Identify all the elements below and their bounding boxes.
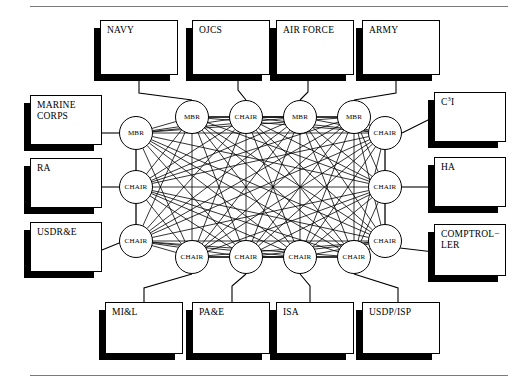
mesh-edge	[151, 141, 339, 248]
box-shadow-bottom	[24, 271, 94, 278]
committee-node-label: CHAIR	[374, 129, 397, 137]
mesh-edge	[152, 122, 175, 129]
org-box-label: ARMY	[369, 25, 439, 36]
org-box-label: OJCS	[199, 25, 269, 36]
committee-node-label: MBR	[128, 129, 144, 137]
committee-node-label: CHAIR	[235, 113, 258, 121]
org-box-label: PA&E	[199, 307, 269, 318]
committee-node-label: MBR	[346, 113, 362, 121]
org-box-airforce[interactable]: AIR FORCE	[276, 20, 354, 75]
connector-k-isa	[300, 274, 310, 302]
box-shadow-bottom	[24, 144, 94, 151]
org-box-army[interactable]: ARMY	[362, 20, 440, 75]
org-box-usdpisp[interactable]: USDP/ISP	[362, 302, 440, 354]
box-shadow-bottom	[24, 207, 94, 214]
org-box-c3i[interactable]: C3I	[434, 92, 506, 142]
box-shadow-bottom	[94, 74, 170, 81]
box-shadow-bottom	[428, 206, 498, 213]
org-box-label: HA	[441, 162, 505, 173]
committee-node-c-top-3[interactable]: MBR	[283, 100, 317, 134]
box-shadow-bottom	[270, 74, 346, 81]
mesh-edge	[152, 194, 285, 251]
committee-node-label: MBR	[292, 113, 308, 121]
org-box-ha[interactable]: HA	[434, 157, 506, 207]
org-box-ojcs[interactable]: OJCS	[192, 20, 270, 75]
committee-node-c-top-1[interactable]: MBR	[175, 100, 209, 134]
org-box-label: RA	[37, 163, 101, 174]
org-box-label: MI&L	[112, 307, 182, 318]
box-shadow-bottom	[99, 353, 175, 360]
committee-node-label: CHAIR	[125, 183, 148, 191]
mesh-edge	[152, 124, 285, 181]
org-box-label: ISA	[283, 307, 353, 318]
mesh-edge	[151, 125, 339, 232]
connector-k-pae	[232, 274, 246, 302]
committee-node-c-bot-4[interactable]: CHAIR	[337, 240, 371, 274]
mesh-edge	[206, 142, 370, 248]
mesh-edge	[206, 126, 370, 232]
committee-node-label: MBR	[184, 113, 200, 121]
committee-node-c-left-3[interactable]: CHAIR	[119, 224, 153, 258]
mesh-edge	[152, 246, 175, 253]
org-box-marinecorps[interactable]: MARINE CORPS	[30, 95, 102, 145]
committee-node-c-bot-3[interactable]: CHAIR	[283, 240, 317, 274]
committee-node-label: CHAIR	[289, 253, 312, 261]
committee-node-c-right-1[interactable]: CHAIR	[368, 116, 402, 150]
org-box-label: AIR FORCE	[283, 25, 353, 36]
committee-node-label: CHAIR	[125, 237, 148, 245]
org-box-mil[interactable]: MI&L	[105, 302, 183, 354]
org-box-label: NAVY	[107, 25, 177, 36]
org-box-label: C3I	[441, 97, 505, 108]
committee-node-c-top-4[interactable]: MBR	[337, 100, 371, 134]
mesh-edge	[153, 119, 283, 132]
box-shadow-bottom	[428, 141, 498, 148]
org-box-comptroller[interactable]: COMPTROL− LER	[434, 224, 506, 276]
committee-node-c-top-2[interactable]: CHAIR	[229, 100, 263, 134]
org-box-navy[interactable]: NAVY	[100, 20, 178, 75]
box-shadow-bottom	[356, 74, 432, 81]
box-shadow-bottom	[356, 353, 432, 360]
mesh-edge	[153, 243, 283, 256]
committee-node-c-right-3[interactable]: CHAIR	[368, 224, 402, 258]
org-box-usdre[interactable]: USDR&E	[30, 222, 102, 272]
box-shadow-bottom	[270, 353, 346, 360]
committee-node-label: CHAIR	[374, 183, 397, 191]
network-diagram-figure: NAVYOJCSAIR FORCEARMYMARINE CORPSRAUSDR&…	[0, 0, 524, 383]
org-box-ra[interactable]: RA	[30, 158, 102, 208]
org-box-label: USDP/ISP	[369, 307, 439, 318]
committee-node-label: CHAIR	[181, 253, 204, 261]
committee-node-c-left-2[interactable]: CHAIR	[119, 170, 153, 204]
box-shadow-bottom	[186, 74, 262, 81]
committee-node-label: CHAIR	[235, 253, 258, 261]
org-box-label: COMPTROL− LER	[441, 229, 505, 251]
connector-k-usdpisp	[354, 274, 398, 302]
committee-node-label: CHAIR	[374, 237, 397, 245]
committee-node-c-bot-1[interactable]: CHAIR	[175, 240, 209, 274]
org-box-label: USDR&E	[37, 227, 101, 238]
org-box-label: MARINE CORPS	[37, 100, 101, 122]
org-box-isa[interactable]: ISA	[276, 302, 354, 354]
committee-node-c-bot-2[interactable]: CHAIR	[229, 240, 263, 274]
org-box-pae[interactable]: PA&E	[192, 302, 270, 354]
box-shadow-bottom	[186, 353, 262, 360]
box-shadow-bottom	[428, 275, 498, 282]
committee-node-label: CHAIR	[343, 253, 366, 261]
committee-node-c-right-2[interactable]: CHAIR	[368, 170, 402, 204]
committee-node-c-left-1[interactable]: MBR	[119, 116, 153, 150]
connector-k-mil	[144, 274, 192, 302]
mesh-edges	[136, 117, 385, 257]
